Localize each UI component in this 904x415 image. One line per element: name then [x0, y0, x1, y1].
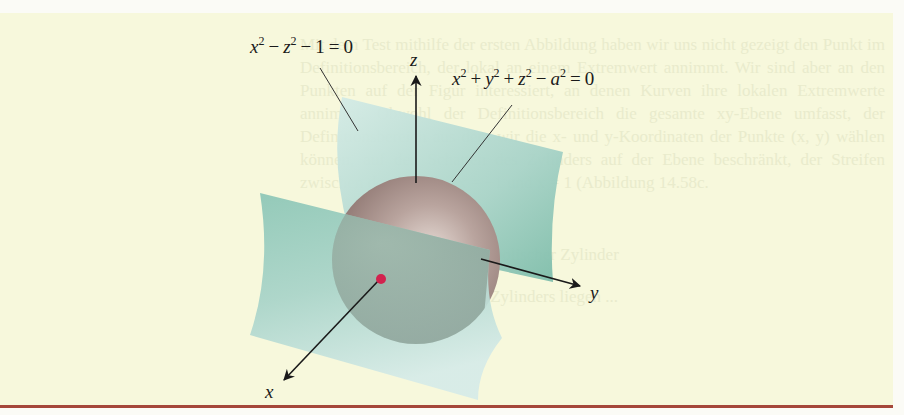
bottom-rule	[0, 405, 893, 408]
x-axis-label: x	[265, 381, 273, 403]
eq1-op: −	[264, 36, 283, 57]
eq1-op: −	[297, 36, 316, 57]
surface-intersection-figure	[0, 0, 904, 415]
equation-hyperbolic-cylinder: x2−z2−1=0	[250, 36, 353, 58]
eq2-equals: =	[566, 68, 585, 89]
eq1-exp: 2	[291, 34, 297, 48]
eq1-one: 1	[315, 36, 325, 57]
eq2-z: z	[518, 68, 525, 89]
eq1-equals: =	[325, 36, 344, 57]
eq2-a: a	[550, 68, 560, 89]
equation-sphere: x2+y2+z2−a2=0	[452, 68, 594, 90]
eq2-y: y	[485, 68, 493, 89]
eq2-op: +	[466, 68, 485, 89]
highlight-point	[376, 274, 386, 284]
eq2-op: −	[532, 68, 551, 89]
eq1-z: z	[283, 36, 290, 57]
eq2-op: +	[500, 68, 519, 89]
eq2-exp: 2	[494, 66, 500, 80]
z-axis-label: z	[410, 49, 417, 71]
eq2-zero: 0	[585, 68, 595, 89]
eq1-zero: 0	[344, 36, 354, 57]
eq2-exp: 2	[526, 66, 532, 80]
y-axis-label: y	[590, 282, 598, 304]
